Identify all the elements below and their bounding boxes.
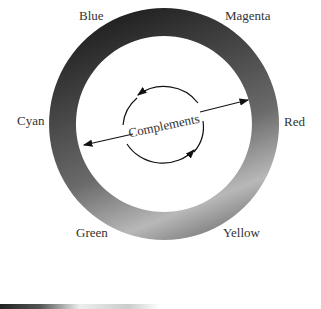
complements-label: Complements [127,111,201,141]
label-cyan: Cyan [17,113,44,129]
label-red: Red [284,114,305,130]
label-green: Green [76,225,108,241]
gradient-bar [0,304,160,309]
label-yellow: Yellow [223,225,260,241]
label-magenta: Magenta [225,8,270,24]
label-blue: Blue [79,8,104,24]
color-wheel-diagram: Complements [0,0,321,309]
